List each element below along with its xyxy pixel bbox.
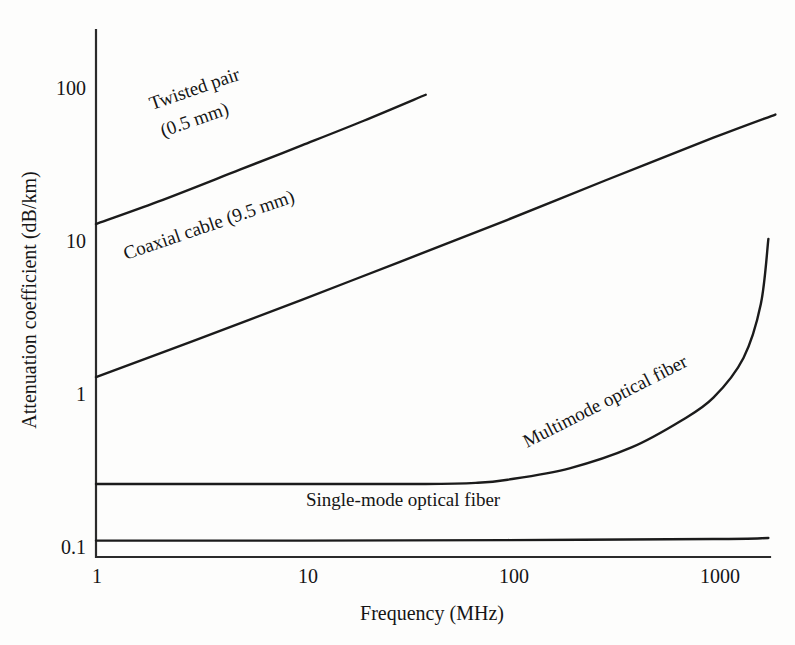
x-tick-label-100: 100 bbox=[499, 565, 529, 587]
annotation-multimode-fiber: Multimode optical fiber bbox=[519, 350, 691, 451]
annotation-coaxial-cable: Coaxial cable (9.5 mm) bbox=[120, 186, 297, 265]
y-tick-label-100: 100 bbox=[56, 77, 86, 99]
attenuation-vs-frequency-chart: 100 10 1 0.1 1 10 100 1000 Attenuation c… bbox=[0, 0, 795, 645]
x-tick-label-1: 1 bbox=[92, 565, 102, 587]
y-tick-label-0-1: 0.1 bbox=[61, 536, 86, 558]
y-tick-label-10: 10 bbox=[66, 230, 86, 252]
y-tick-label-1: 1 bbox=[76, 383, 86, 405]
x-tick-label-10: 10 bbox=[298, 565, 318, 587]
series-line-coaxial-cable bbox=[96, 115, 775, 378]
x-tick-label-1000: 1000 bbox=[700, 565, 740, 587]
y-axis-title: Attenuation coefficient (dB/km) bbox=[18, 171, 41, 428]
annotation-singlemode-fiber: Single-mode optical fiber bbox=[306, 489, 501, 510]
series-line-singlemode-fiber bbox=[96, 538, 768, 541]
figure-container: 100 10 1 0.1 1 10 100 1000 Attenuation c… bbox=[0, 0, 795, 645]
x-axis-title: Frequency (MHz) bbox=[360, 602, 504, 625]
annotation-twisted-pair-line1: Twisted pair bbox=[146, 63, 243, 114]
